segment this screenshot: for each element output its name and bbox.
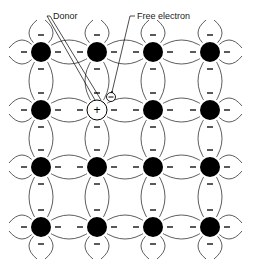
atom <box>200 42 220 62</box>
bond-line <box>159 171 204 179</box>
leader-arrowhead <box>111 91 113 93</box>
bond-line <box>198 116 206 161</box>
bond-line <box>85 116 93 161</box>
bond-line <box>198 173 206 221</box>
atom <box>87 157 107 177</box>
atom <box>87 217 107 237</box>
bond-line <box>47 155 91 163</box>
bond-line <box>159 56 204 64</box>
bond-line <box>157 173 165 221</box>
bond-line <box>47 231 91 239</box>
bond-line <box>159 155 204 163</box>
bond-line <box>47 215 91 223</box>
bond-line <box>85 173 93 221</box>
atom <box>87 42 107 62</box>
bond-line <box>103 231 147 239</box>
bond-line <box>159 231 204 239</box>
bond-line <box>214 173 222 221</box>
free-electron-leader-line <box>112 16 135 92</box>
bond-line <box>157 58 165 104</box>
bond-line <box>47 56 91 64</box>
bond-line <box>101 173 109 221</box>
atom <box>31 42 51 62</box>
bond-line <box>141 58 149 104</box>
bond-line <box>159 40 204 48</box>
bond-line <box>101 116 109 161</box>
atom <box>143 217 163 237</box>
bond-line <box>103 155 147 163</box>
bond-line <box>214 116 222 161</box>
bond-line <box>47 114 91 122</box>
bond-line <box>103 40 147 48</box>
bond-line <box>47 171 91 179</box>
bond-line <box>103 114 147 122</box>
donor-charge: + <box>93 103 100 117</box>
atom <box>143 157 163 177</box>
bond-line <box>29 173 37 221</box>
bond-line <box>29 116 37 161</box>
bond-line <box>47 98 91 106</box>
atom <box>31 217 51 237</box>
free-electron-label: Free electron <box>137 11 190 21</box>
bond-line <box>45 58 53 104</box>
atom <box>143 42 163 62</box>
bond-line <box>103 215 147 223</box>
bond-line <box>159 215 204 223</box>
bond-line <box>157 116 165 161</box>
bond-line <box>103 171 147 179</box>
atom <box>31 157 51 177</box>
bond-line <box>198 58 206 104</box>
bond-line <box>103 56 147 64</box>
bond-line <box>45 116 53 161</box>
bond-line <box>141 173 149 221</box>
bond-line <box>159 114 204 122</box>
atom <box>200 157 220 177</box>
semiconductor-lattice-diagram: + <box>0 0 254 270</box>
bond-line <box>159 98 204 106</box>
bond-line <box>85 58 93 104</box>
bond-line <box>214 58 222 104</box>
bond-line <box>141 116 149 161</box>
donor-label: Donor <box>53 11 78 21</box>
atom <box>200 100 220 120</box>
atom <box>31 100 51 120</box>
atom <box>200 217 220 237</box>
bond-line <box>45 173 53 221</box>
bond-line <box>29 58 37 104</box>
atom <box>143 100 163 120</box>
